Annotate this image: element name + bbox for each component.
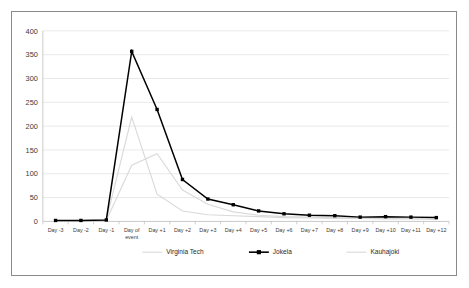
data-point-marker [232,203,235,206]
x-axis-tick-label: Day +2 [174,227,191,233]
legend-label-virginia-tech[interactable]: Virginia Tech [166,248,204,256]
chart-figure-frame: 050100150200250300350400 Day -3Day -2Day… [11,11,457,276]
chart-legend[interactable]: Virginia TechJokelaKauhajoki [142,248,399,256]
x-axis-tick-label: Day +10 [375,227,395,233]
x-axis-tick-label: event [125,234,139,240]
legend-label-kauhajoki[interactable]: Kauhajoki [370,248,399,256]
x-axis-tick-label: Day +3 [199,227,216,233]
series-line-kauhajoki [56,154,437,221]
x-axis-tick-label: Day -1 [98,227,114,233]
x-axis-tick-label: Day +4 [225,227,242,233]
data-point-marker [358,215,361,218]
x-axis-tick-label: Day +8 [326,227,343,233]
data-point-marker [54,219,57,222]
y-axis-tick-labels: 050100150200250300350400 [26,27,38,227]
y-axis-tick-label: 300 [26,74,38,83]
data-point-marker [333,214,336,217]
data-point-marker [409,215,412,218]
x-axis-tick-label: Day +12 [426,227,446,233]
x-axis-tick-label: Day +9 [352,227,369,233]
x-axis-tick-label: Day -2 [73,227,89,233]
line-chart[interactable]: 050100150200250300350400 Day -3Day -2Day… [12,12,456,275]
y-axis-tick-label: 50 [30,193,38,202]
x-axis-tick-label: Day +1 [149,227,166,233]
y-axis-tick-label: 100 [26,169,38,178]
data-point-marker [181,178,184,181]
data-point-marker [435,216,438,219]
x-axis-tick-labels: Day -3Day -2Day -1Day ofeventDay +1Day +… [48,227,447,239]
data-series-group [54,50,438,222]
x-axis-tick-label: Day -3 [48,227,64,233]
x-axis-tick-label: Day of [124,227,140,233]
data-point-marker [282,212,285,215]
x-axis-tick-marks [43,221,449,224]
x-axis-tick-label: Day +6 [275,227,292,233]
legend-swatch-marker [257,250,261,254]
data-point-marker [155,108,158,111]
data-point-marker [384,215,387,218]
x-axis-tick-label: Day +7 [301,227,318,233]
data-point-marker [79,219,82,222]
y-axis-tick-label: 350 [26,50,38,59]
y-axis-tick-label: 200 [26,122,38,131]
x-axis-tick-label: Day +5 [250,227,267,233]
y-axis-tick-label: 0 [34,217,38,226]
x-axis-tick-label: Day +11 [401,227,421,233]
y-axis-tick-label: 150 [26,146,38,155]
y-axis-tick-label: 250 [26,98,38,107]
data-point-marker [257,209,260,212]
data-point-marker [206,197,209,200]
gridlines-group [43,31,449,198]
y-axis-tick-label: 400 [26,27,38,36]
data-point-marker [105,218,108,221]
data-point-marker [308,214,311,217]
data-point-marker [130,50,133,53]
legend-label-jokela[interactable]: Jokela [273,248,292,255]
